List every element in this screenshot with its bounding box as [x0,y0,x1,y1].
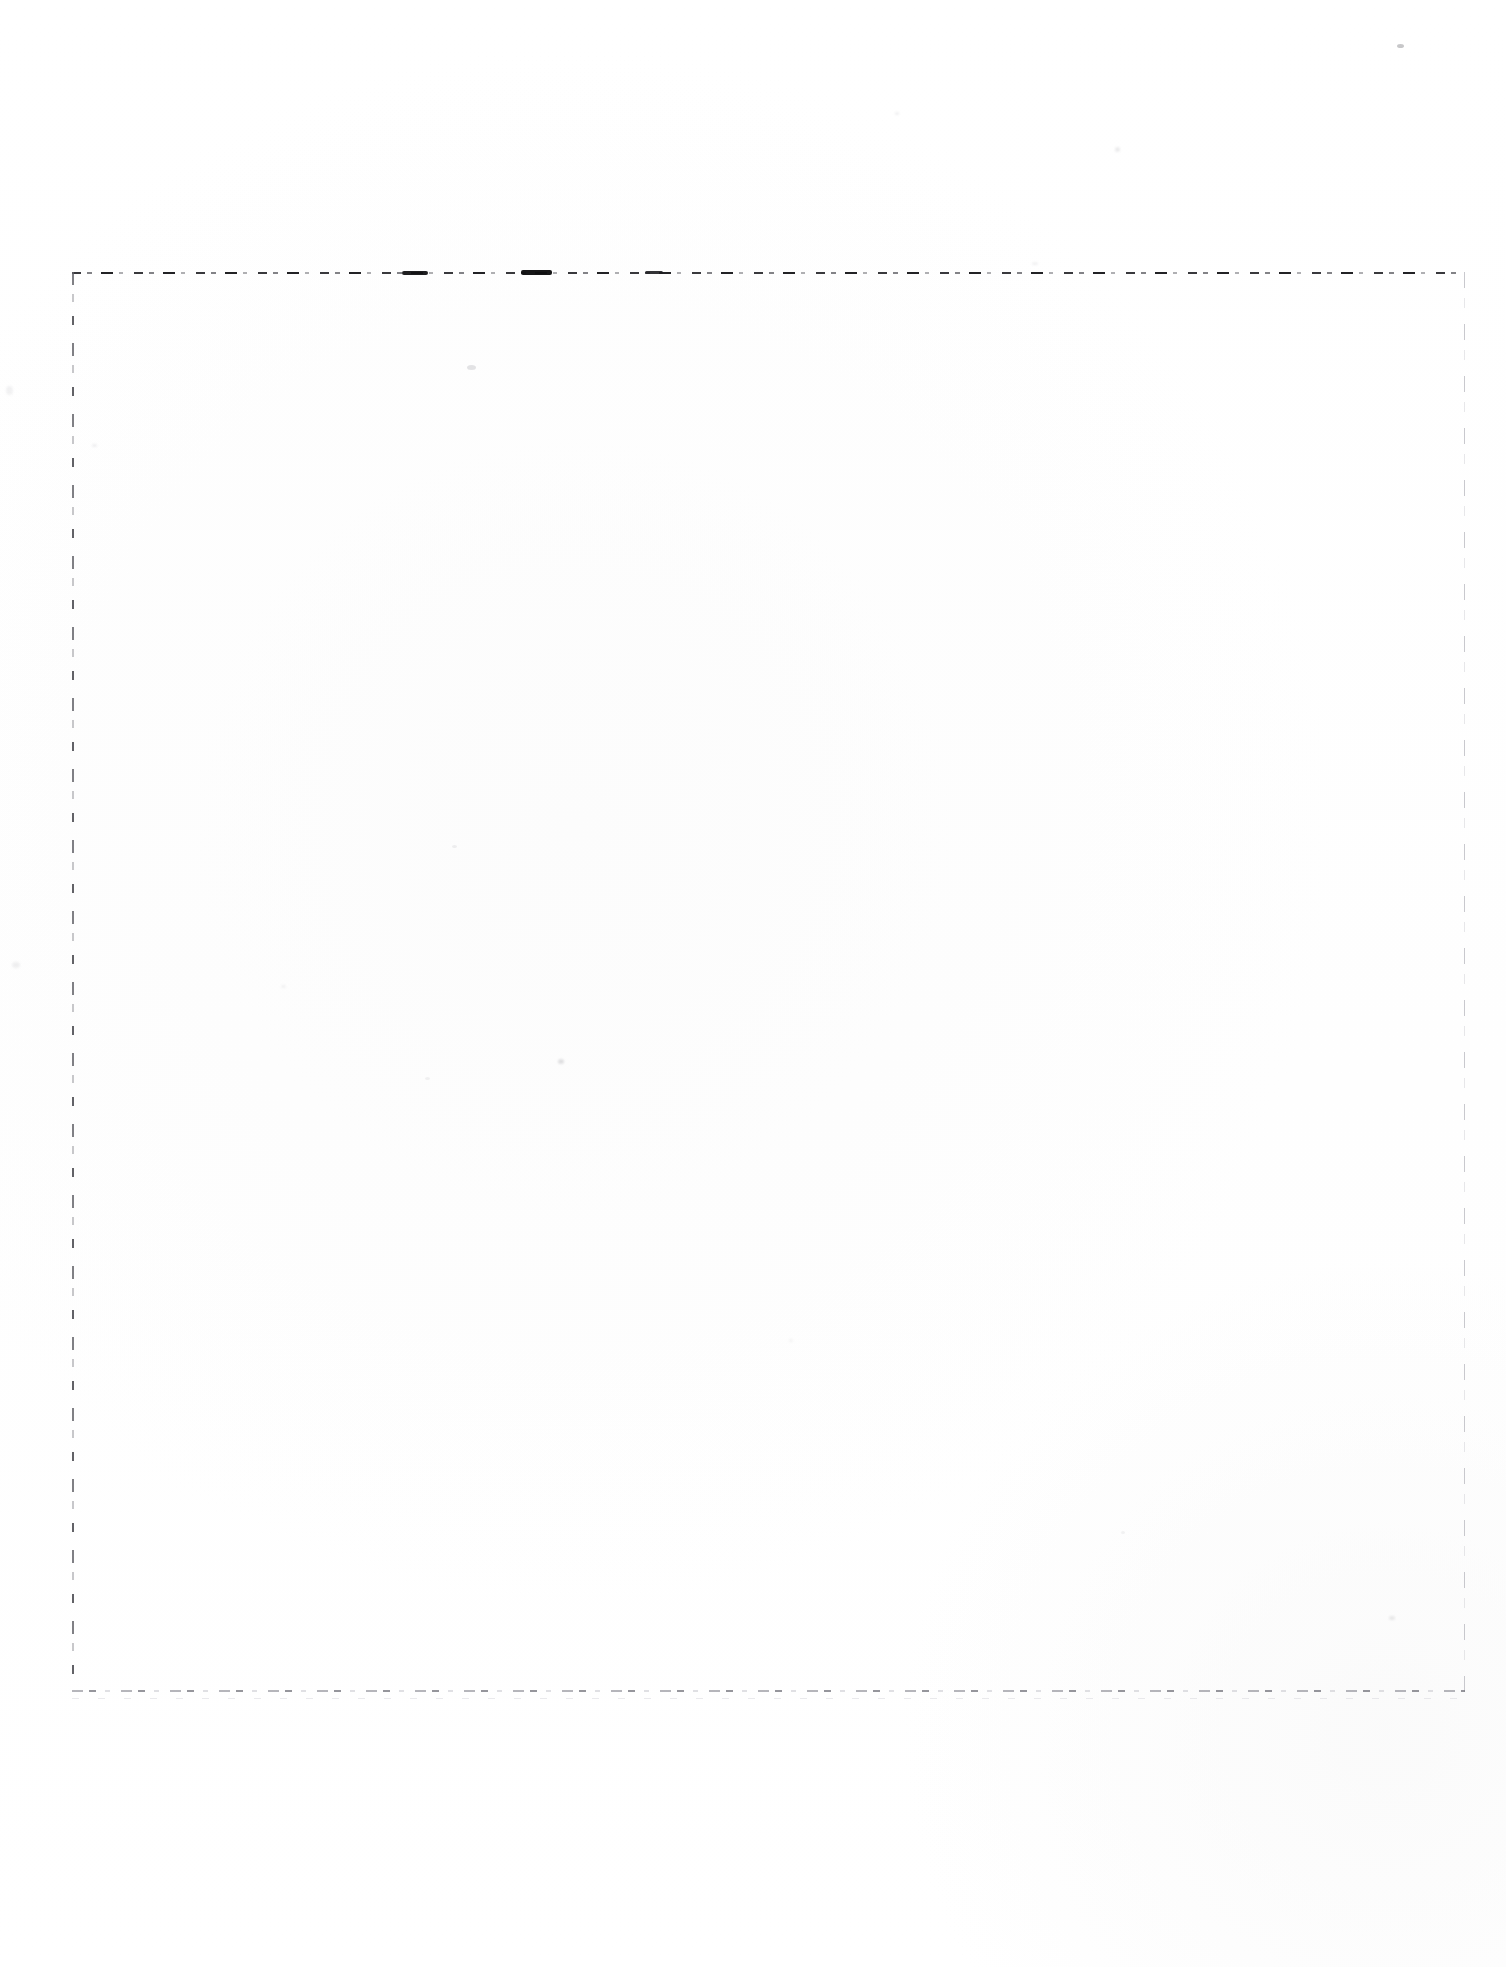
guide-rule-right [1464,272,1465,1692]
scan-speck [895,112,899,115]
guide-rule-left [72,272,74,1692]
scan-speck [12,962,20,968]
scan-speck [1115,147,1120,152]
scanned-page [0,0,1506,1967]
ink-blot-a [402,271,428,275]
scan-speck [1032,262,1038,265]
guide-rule-bottom [72,1690,1465,1692]
scan-speck [1397,44,1404,48]
guide-rule-top [72,272,1465,274]
ink-blot-b [521,270,552,275]
dashed-guide-box [72,272,1465,1692]
scan-speck [6,386,13,395]
guide-rule-bottom-echo [72,1698,1465,1699]
ink-blot-c [645,271,663,274]
